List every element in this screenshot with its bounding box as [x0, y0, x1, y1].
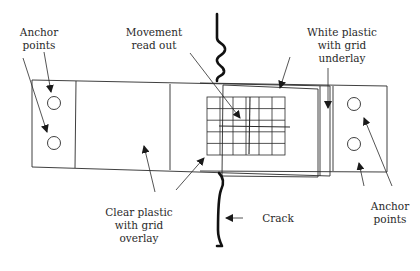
anchor-hole-left-bottom — [48, 137, 61, 150]
leader-clear-plastic-2 — [176, 158, 204, 190]
leader-anchor-right-2 — [364, 118, 392, 186]
leader-anchor-right-1 — [359, 163, 364, 186]
label-crack: Crack — [258, 212, 298, 225]
anchor-hole-left-top — [48, 97, 61, 110]
leader-anchor-left-1 — [44, 52, 51, 92]
leader-anchor-left-2 — [23, 58, 47, 132]
anchor-hole-right-top — [348, 98, 361, 111]
label-clear-plastic: Clear plastic with grid overlay — [96, 206, 182, 245]
label-white-plastic: White plastic with grid underlay — [296, 26, 388, 65]
label-movement-read-out: Movement read out — [120, 26, 188, 52]
crack-line — [217, 14, 225, 246]
clear-plastic-overlay — [222, 85, 318, 177]
label-anchor-points-top-left: Anchor points — [10, 26, 68, 52]
left-tab-divider — [75, 81, 76, 168]
leader-clear-plastic-1 — [144, 146, 155, 192]
readout-crosshair — [219, 97, 290, 154]
leader-white-plastic-1 — [280, 57, 290, 88]
anchor-hole-right-bottom — [348, 138, 361, 151]
white-plastic-underlay — [200, 83, 387, 172]
label-anchor-points-bottom-right: Anchor points — [362, 200, 418, 226]
